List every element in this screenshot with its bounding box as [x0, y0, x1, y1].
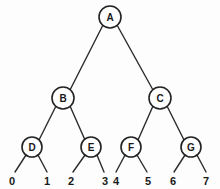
node-label-f: F [128, 142, 134, 153]
tree-node-c[interactable]: C [149, 87, 171, 109]
leaf-label-5: 5 [145, 175, 151, 187]
tree-edge-g-7 [197, 155, 206, 172]
tree-edge-a-c [117, 25, 153, 90]
tree-edge-e-2 [73, 155, 85, 172]
binary-tree-figure: ABCDEFG 01234567 [0, 0, 220, 189]
tree-edge-f-5 [137, 155, 147, 172]
node-label-g: G [187, 142, 195, 153]
tree-edge-b-d [39, 106, 56, 140]
tree-edge-f-4 [116, 155, 125, 172]
leaf-label-0: 0 [9, 175, 15, 187]
leaf-label-3: 3 [102, 175, 108, 187]
tree-edge-e-3 [97, 155, 104, 172]
tree-node-d[interactable]: D [22, 137, 42, 157]
leaf-label-4: 4 [113, 175, 120, 187]
node-label-c: C [156, 93, 163, 104]
tree-edge-d-1 [38, 155, 47, 172]
tree-node-f[interactable]: F [121, 137, 141, 157]
leaf-labels-group: 01234567 [9, 175, 209, 187]
leaf-label-1: 1 [44, 175, 50, 187]
tree-edge-d-0 [15, 155, 26, 172]
node-label-a: A [106, 12, 113, 23]
tree-edge-c-f [138, 106, 153, 140]
leaf-label-7: 7 [203, 175, 209, 187]
tree-edge-g-6 [174, 155, 185, 172]
node-label-d: D [28, 142, 35, 153]
leaf-label-2: 2 [68, 175, 74, 187]
tree-node-a[interactable]: A [99, 6, 121, 28]
tree-edge-a-b [70, 25, 103, 90]
tree-canvas: ABCDEFG 01234567 [0, 0, 220, 189]
leaf-label-6: 6 [170, 175, 176, 187]
node-label-e: E [88, 142, 95, 153]
tree-node-e[interactable]: E [81, 137, 101, 157]
tree-nodes-group: ABCDEFG [22, 6, 201, 157]
tree-node-b[interactable]: B [52, 87, 74, 109]
tree-edge-c-g [167, 106, 184, 140]
tree-edges-group [15, 25, 206, 172]
tree-node-g[interactable]: G [181, 137, 201, 157]
node-label-b: B [59, 93, 66, 104]
tree-edge-b-e [70, 106, 85, 140]
